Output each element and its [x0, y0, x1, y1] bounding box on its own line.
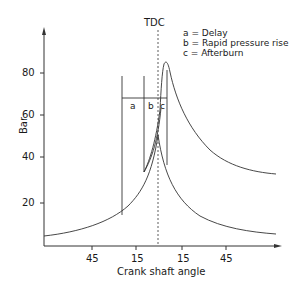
- y-tick-label-40: 40: [22, 151, 35, 162]
- tdc-label: TDC: [143, 17, 165, 28]
- y-axis-label: Bar: [18, 116, 29, 134]
- x-tick-label-15-after: 15: [177, 253, 190, 264]
- y-tick-label-20: 20: [22, 197, 35, 208]
- motoring-curve: [44, 135, 276, 236]
- x-tick-label-45-before: 45: [86, 253, 99, 264]
- pressure-diagram: 80 60 40 20 Bar 45 15 15 45 Crank shaft …: [0, 0, 298, 284]
- firing-curve: [144, 62, 276, 174]
- phase-label-a: a: [130, 101, 136, 111]
- legend-delay: a = Delay: [183, 28, 228, 38]
- x-tick-label-15-before: 15: [131, 253, 144, 264]
- legend-rapid-pressure-rise: b = Rapid pressure rise: [183, 38, 289, 48]
- y-axis-arrow-icon: [42, 27, 46, 35]
- x-tick-label-45-after: 45: [220, 253, 233, 264]
- phase-label-c: c: [160, 101, 165, 111]
- y-tick-label-80: 80: [22, 67, 35, 78]
- x-axis-arrow-icon: [274, 244, 282, 248]
- phase-label-b: b: [148, 101, 154, 111]
- x-axis-label: Crank shaft angle: [117, 266, 205, 277]
- legend-afterburn: c = Afterburn: [183, 48, 244, 58]
